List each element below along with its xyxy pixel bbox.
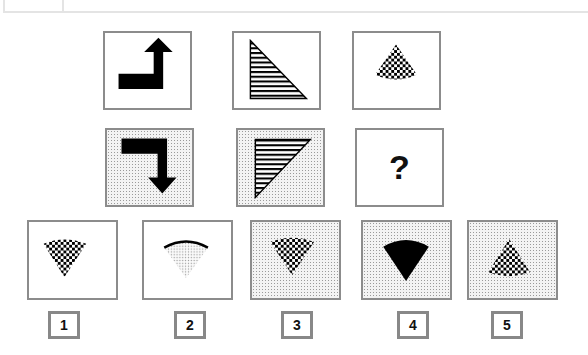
option-5-figure[interactable] [467, 220, 558, 300]
option-4-figure[interactable] [361, 220, 452, 300]
arrow-bent-down-icon [107, 130, 192, 205]
grid-cell-r2c1 [105, 128, 194, 207]
option-4-label[interactable]: 4 [397, 311, 429, 339]
option-2-figure[interactable] [142, 220, 233, 300]
arrow-bent-up-icon [105, 33, 190, 108]
solid-sector-down-icon [363, 222, 450, 298]
option-3-figure[interactable] [250, 220, 341, 300]
checkered-sector-up-icon [469, 222, 556, 298]
grid-cell-r2c2 [236, 128, 325, 207]
grid-cell-r2c3-unknown: ? [355, 128, 444, 207]
option-3-label[interactable]: 3 [281, 311, 313, 339]
grid-cell-r1c3 [352, 31, 441, 110]
checkered-sector-up-icon [354, 33, 439, 108]
top-toolbar-strip [3, 0, 588, 13]
grid-cell-r1c1 [103, 31, 192, 110]
option-1-label[interactable]: 1 [48, 311, 80, 339]
striped-triangle-icon [234, 33, 319, 108]
dotted-sector-arc-icon [144, 222, 231, 298]
striped-triangle-icon [238, 130, 323, 205]
option-2-label[interactable]: 2 [174, 311, 206, 339]
grid-cell-r1c2 [232, 31, 321, 110]
checkered-sector-down-icon [29, 222, 116, 298]
option-1-figure[interactable] [27, 220, 118, 300]
option-5-label[interactable]: 5 [491, 311, 523, 339]
top-toolbar-cell [5, 0, 64, 11]
question-mark: ? [357, 130, 442, 205]
checkered-sector-down-icon [252, 222, 339, 298]
